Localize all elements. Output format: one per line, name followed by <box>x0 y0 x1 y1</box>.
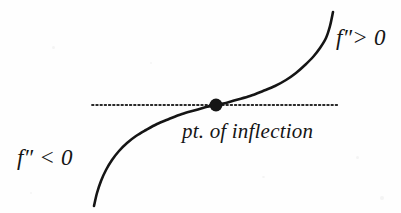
concave-up-region-label: f″> 0 <box>336 26 386 49</box>
concave-down-region-label: f″ < 0 <box>17 146 73 169</box>
inflection-marker-group <box>210 99 223 112</box>
inflection-point-label: pt. of inflection <box>182 121 313 142</box>
figure-canvas: f″> 0 f″ < 0 pt. of inflection <box>0 0 401 213</box>
inflection-point-marker <box>210 99 223 112</box>
